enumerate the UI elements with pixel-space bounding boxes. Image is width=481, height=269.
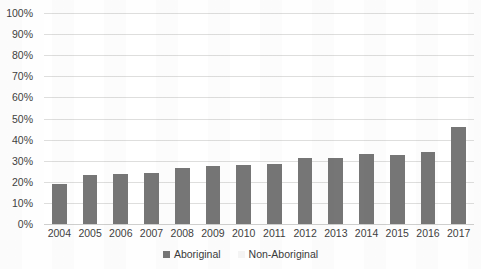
x-axis-tick-label: 2010 — [228, 227, 259, 239]
legend-swatch-icon — [238, 251, 245, 258]
bar[interactable] — [206, 166, 221, 224]
plot-area — [44, 13, 474, 224]
bar-group — [413, 13, 444, 224]
x-axis-tick-label: 2008 — [167, 227, 198, 239]
plot-area-wrapper: 100%90%80%70%60%50%40%30%20%10%0% — [44, 13, 474, 224]
bar-group — [443, 13, 474, 224]
y-axis-tick-label: 10% — [0, 197, 33, 209]
bar[interactable] — [359, 154, 374, 224]
bar-group — [44, 13, 75, 224]
bar[interactable] — [175, 168, 190, 224]
chart-legend: AboriginalNon-Aboriginal — [0, 248, 481, 260]
x-axis-tick-label: 2006 — [105, 227, 136, 239]
bar-series-group — [44, 13, 474, 224]
legend-label: Aboriginal — [174, 248, 221, 260]
y-axis-tick-label: 40% — [0, 134, 33, 146]
bar-group — [228, 13, 259, 224]
bar[interactable] — [144, 173, 159, 224]
bar-group — [75, 13, 106, 224]
y-axis-tick-label: 20% — [0, 176, 33, 188]
bar-chart: 100%90%80%70%60%50%40%30%20%10%0% 200420… — [0, 0, 481, 269]
y-axis-tick-label: 50% — [0, 113, 33, 125]
x-axis-tick-label: 2005 — [75, 227, 106, 239]
legend-swatch-icon — [163, 251, 170, 258]
bar[interactable] — [298, 158, 313, 224]
bar[interactable] — [83, 175, 98, 224]
legend-item[interactable]: Aboriginal — [163, 248, 221, 260]
x-axis-tick-label: 2014 — [351, 227, 382, 239]
y-axis-tick-label: 30% — [0, 155, 33, 167]
bar-group — [136, 13, 167, 224]
chart-title — [0, 0, 481, 4]
bar[interactable] — [113, 174, 128, 224]
legend-item[interactable]: Non-Aboriginal — [238, 248, 318, 260]
bar[interactable] — [267, 164, 282, 224]
y-axis-tick-label: 80% — [0, 49, 33, 61]
x-axis-tick-label: 2004 — [44, 227, 75, 239]
y-axis-tick-label: 100% — [0, 7, 33, 19]
x-axis: 2004200520062007200820092010201120122013… — [44, 227, 474, 239]
bar-group — [167, 13, 198, 224]
bar-group — [105, 13, 136, 224]
y-axis-tick-label: 0% — [0, 218, 33, 230]
legend-label: Non-Aboriginal — [249, 248, 318, 260]
x-axis-tick-label: 2012 — [290, 227, 321, 239]
bar[interactable] — [328, 158, 343, 224]
y-axis-tick-label: 90% — [0, 28, 33, 40]
x-axis-tick-label: 2016 — [413, 227, 444, 239]
y-axis-tick-label: 70% — [0, 70, 33, 82]
bar-group — [382, 13, 413, 224]
x-axis-tick-label: 2009 — [198, 227, 229, 239]
x-axis-tick-label: 2013 — [320, 227, 351, 239]
bar[interactable] — [421, 152, 436, 224]
bar-group — [290, 13, 321, 224]
bar[interactable] — [236, 165, 251, 224]
bar[interactable] — [451, 127, 466, 224]
bar-group — [351, 13, 382, 224]
bar-group — [320, 13, 351, 224]
gridline — [44, 224, 474, 225]
x-axis-tick-label: 2015 — [382, 227, 413, 239]
x-axis-tick-label: 2011 — [259, 227, 290, 239]
bar[interactable] — [52, 184, 67, 224]
x-axis-tick-label: 2007 — [136, 227, 167, 239]
x-axis-tick-label: 2017 — [443, 227, 474, 239]
bar-group — [198, 13, 229, 224]
y-axis-tick-label: 60% — [0, 91, 33, 103]
bar[interactable] — [390, 155, 405, 224]
bar-group — [259, 13, 290, 224]
